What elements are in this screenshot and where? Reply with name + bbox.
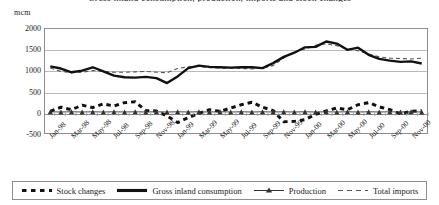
- legend-label-gross-inland-consumption: Gross inland consumption: [152, 186, 241, 196]
- legend-swatch-production: [253, 186, 285, 195]
- y-tick-label-2000: 2000: [1, 24, 41, 33]
- legend-label-production: Production: [289, 186, 326, 196]
- y-tick-label-0: 0: [1, 108, 41, 117]
- legend-item-gross-inland-consumption[interactable]: Gross inland consumption: [116, 186, 241, 196]
- y-axis-unit-label: mcm: [14, 8, 31, 17]
- legend-swatch-total-imports: [337, 186, 369, 195]
- y-tick-label-1500: 1500: [1, 45, 41, 54]
- legend-item-stock-changes[interactable]: Stock changes: [21, 186, 106, 196]
- chart-container: Gross inland consumption, production, im…: [0, 0, 439, 205]
- chart-legend: Stock changes Gross inland consumption P…: [12, 181, 427, 200]
- legend-item-production[interactable]: Production: [253, 186, 326, 196]
- legend-item-total-imports[interactable]: Total imports: [337, 186, 418, 196]
- legend-swatch-stock-changes: [21, 186, 53, 195]
- chart-title: Gross inland consumption, production, im…: [0, 0, 439, 2]
- legend-label-total-imports: Total imports: [373, 186, 418, 196]
- legend-label-stock-changes: Stock changes: [57, 186, 106, 196]
- x-axis-tick-labels: Jan-98Mar-98May-98Jul-98Sep-98Nov-98Jan-…: [44, 134, 428, 178]
- y-tick-label-500: 500: [1, 87, 41, 96]
- legend-swatch-gross-inland-consumption: [116, 186, 148, 195]
- y-tick-label-1000: 1000: [1, 66, 41, 75]
- y-tick-label--500: -500: [1, 130, 41, 139]
